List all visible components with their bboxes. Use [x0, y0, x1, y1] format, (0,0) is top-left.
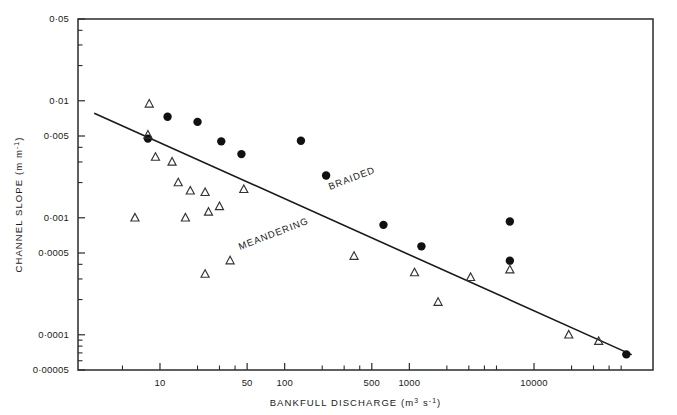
- x-axis-title: BANKFULL DISCHARGE (m3 s-1): [270, 397, 442, 409]
- data-point-meandering[interactable]: [151, 153, 159, 161]
- data-point-braided[interactable]: [506, 256, 514, 264]
- scatter-plot: 10501005001000100000·050·010·0050·0010·0…: [0, 0, 677, 415]
- data-point-meandering[interactable]: [434, 298, 442, 306]
- y-tick-label-0·0005: 0·0005: [38, 247, 69, 258]
- data-point-braided[interactable]: [622, 350, 630, 358]
- data-point-meandering[interactable]: [226, 256, 234, 264]
- data-point-meandering[interactable]: [215, 202, 223, 210]
- y-tick-label-0·0001: 0·0001: [38, 329, 69, 340]
- annotation-meandering: MEANDERING: [237, 215, 310, 252]
- data-point-meandering[interactable]: [565, 330, 573, 338]
- data-point-braided[interactable]: [506, 217, 514, 225]
- data-point-braided[interactable]: [217, 137, 225, 145]
- data-point-braided[interactable]: [193, 118, 201, 126]
- series-meandering: [131, 100, 603, 345]
- data-point-meandering[interactable]: [131, 213, 139, 221]
- data-point-meandering[interactable]: [506, 265, 514, 273]
- data-point-meandering[interactable]: [186, 186, 194, 194]
- x-tick-label-10: 10: [155, 377, 166, 388]
- y-tick-label-0·00005: 0·00005: [33, 364, 69, 375]
- x-tick-label-1000: 1000: [398, 377, 420, 388]
- data-point-braided[interactable]: [322, 171, 330, 179]
- y-tick-label-0·01: 0·01: [49, 95, 69, 106]
- x-tick-label-50: 50: [242, 377, 253, 388]
- x-tick-label-100: 100: [276, 377, 292, 388]
- data-point-braided[interactable]: [163, 113, 171, 121]
- trend-line: [95, 113, 631, 354]
- data-point-meandering[interactable]: [181, 213, 189, 221]
- x-tick-label-10000: 10000: [520, 377, 547, 388]
- y-axis-title: CHANNEL SLOPE (m m-1): [13, 137, 25, 273]
- data-point-meandering[interactable]: [145, 100, 153, 108]
- data-point-braided[interactable]: [237, 150, 245, 158]
- data-point-meandering[interactable]: [204, 208, 212, 216]
- data-point-meandering[interactable]: [410, 268, 418, 276]
- y-tick-label-0·001: 0·001: [44, 212, 69, 223]
- data-point-braided[interactable]: [297, 137, 305, 145]
- y-tick-label-0·005: 0·005: [44, 130, 69, 141]
- x-tick-label-500: 500: [364, 377, 380, 388]
- data-point-meandering[interactable]: [168, 158, 176, 166]
- figure-container: 10501005001000100000·050·010·0050·0010·0…: [0, 0, 677, 415]
- plot-frame: [78, 19, 653, 370]
- data-point-meandering[interactable]: [201, 270, 209, 278]
- data-point-braided[interactable]: [417, 242, 425, 250]
- data-point-meandering[interactable]: [201, 188, 209, 196]
- data-point-meandering[interactable]: [174, 178, 182, 186]
- data-point-meandering[interactable]: [240, 185, 248, 193]
- data-point-meandering[interactable]: [350, 252, 358, 260]
- data-point-meandering[interactable]: [467, 273, 475, 281]
- annotation-braided: BRAIDED: [327, 164, 377, 192]
- y-tick-label-0·05: 0·05: [49, 13, 69, 24]
- data-point-braided[interactable]: [379, 221, 387, 229]
